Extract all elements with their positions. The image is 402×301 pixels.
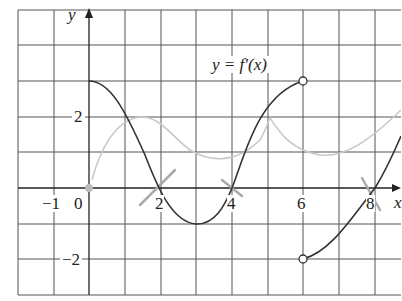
y-tick-neg2: −2 — [60, 251, 82, 268]
x-tick-neg1: −1 — [42, 195, 60, 212]
x-tick-0: 0 — [74, 195, 83, 212]
function-label: y = f′(x) — [210, 56, 269, 73]
y-tick-2: 2 — [72, 108, 85, 125]
x-axis-label: x — [394, 194, 402, 211]
function-label-rhs: f′(x) — [240, 55, 267, 74]
faint-sketch — [92, 110, 401, 180]
y-axis-label: y — [68, 6, 76, 23]
x-tick-2: 2 — [155, 195, 164, 212]
x-tick-6: 6 — [297, 195, 306, 212]
x-tick-4: 4 — [227, 195, 236, 212]
x-tick-8: 8 — [366, 195, 375, 212]
function-label-lhs: y = — [212, 55, 240, 74]
open-circle-top — [299, 77, 307, 85]
open-circle-bottom — [299, 255, 307, 263]
x-axis-arrow-icon — [392, 184, 401, 192]
